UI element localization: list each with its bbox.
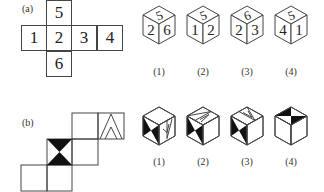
option-label-b-4: (4) xyxy=(276,156,306,167)
option-label-b-2: (2) xyxy=(188,156,218,167)
option-label-b-3: (3) xyxy=(232,156,262,167)
double-chevron-face xyxy=(100,114,122,139)
pattern-cube-option-1[interactable] xyxy=(139,105,179,155)
bowtie-face xyxy=(47,139,72,165)
option-label-b-1: (1) xyxy=(144,156,174,167)
pattern-cube-option-3[interactable] xyxy=(227,105,267,155)
pattern-cube-option-2[interactable] xyxy=(183,105,223,155)
pattern-cube-option-4[interactable] xyxy=(271,105,311,155)
